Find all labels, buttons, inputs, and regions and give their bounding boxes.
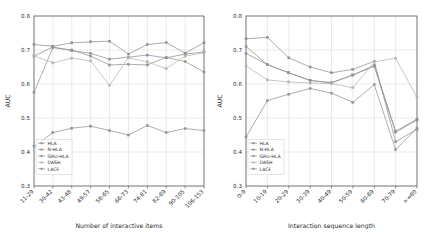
data-point — [330, 83, 332, 85]
data-point — [416, 127, 418, 129]
x-tick-label: 40-49 — [316, 188, 332, 204]
data-point — [373, 84, 375, 86]
data-point — [373, 65, 375, 67]
chart-panel-right: 0.30.40.50.60.70.80-910-1920-2930-3940-4… — [212, 0, 425, 232]
data-point — [165, 68, 167, 70]
y-tick-label: 0.4 — [233, 149, 242, 155]
series-line-gru-hla — [34, 48, 204, 93]
x-tick-label: 106-153 — [184, 188, 205, 209]
legend-swatch-marker — [253, 161, 255, 163]
legend-swatch-marker — [253, 149, 255, 151]
data-point — [309, 79, 311, 81]
y-tick-label: 0.6 — [21, 81, 30, 87]
data-point — [71, 127, 73, 129]
data-point — [395, 141, 397, 143]
data-point — [184, 52, 186, 54]
data-point — [352, 101, 354, 103]
data-point — [203, 71, 205, 73]
y-tick-label: 0.5 — [21, 115, 30, 121]
data-point — [90, 60, 92, 62]
data-point — [352, 87, 354, 89]
chart-panel-left: 0.30.40.50.60.70.811-2930-4243-4849-5758… — [0, 0, 212, 232]
y-tick-label: 0.7 — [233, 47, 242, 53]
y-tick-label: 0.7 — [21, 47, 30, 53]
legend-swatch-marker — [253, 168, 255, 170]
legend-label-lacf: LACF — [260, 167, 272, 172]
data-point — [395, 131, 397, 133]
data-point — [165, 132, 167, 134]
legend-label-lacf: LACF — [48, 167, 60, 172]
x-tick-label: 10-19 — [252, 188, 268, 204]
data-point — [245, 136, 247, 138]
data-point — [146, 64, 148, 66]
data-point — [288, 93, 290, 95]
data-point — [90, 55, 92, 57]
data-point — [288, 72, 290, 74]
data-point — [108, 64, 110, 66]
data-point — [266, 64, 268, 66]
data-point — [416, 119, 418, 121]
x-tick-label: 49-57 — [76, 188, 92, 204]
legend-label-dash: DASH — [48, 160, 61, 165]
data-point — [52, 62, 54, 64]
data-point — [71, 49, 73, 51]
data-point — [266, 79, 268, 81]
y-tick-label: 0.3 — [21, 183, 30, 189]
data-point — [108, 129, 110, 131]
data-point — [184, 127, 186, 129]
data-point — [127, 53, 129, 55]
x-tick-label: 30-39 — [295, 188, 311, 204]
data-point — [309, 66, 311, 68]
x-tick-label: 0-9 — [236, 188, 247, 199]
legend-label-gru-hla: GRU-HLA — [48, 154, 70, 159]
data-point — [165, 41, 167, 43]
series-line-dash — [34, 53, 204, 86]
x-tick-label: 30-42 — [38, 188, 54, 204]
plot-left: 0.30.40.50.60.70.811-2930-4243-4849-5758… — [0, 0, 212, 232]
y-tick-label: 0.8 — [233, 13, 242, 19]
y-tick-label: 0.8 — [21, 13, 30, 19]
data-point — [146, 124, 148, 126]
data-point — [90, 41, 92, 43]
x-tick-label: 66-73 — [113, 188, 129, 204]
x-tick-label: 43-48 — [57, 188, 73, 204]
legend-label-n-hla: N-HLA — [48, 147, 63, 152]
data-point — [33, 145, 35, 147]
legend-label-hla: HLA — [260, 141, 270, 146]
data-point — [352, 74, 354, 76]
chart-svg-left: 0.30.40.50.60.70.811-2930-4243-4849-5758… — [0, 0, 212, 232]
data-point — [203, 42, 205, 44]
data-point — [395, 149, 397, 151]
chart-svg-right: 0.30.40.50.60.70.80-910-1920-2930-3940-4… — [212, 0, 425, 232]
data-point — [288, 81, 290, 83]
legend-swatch-marker — [41, 149, 43, 151]
y-tick-label: 0.5 — [233, 115, 242, 121]
data-point — [352, 68, 354, 70]
figure-container: 0.30.40.50.60.70.811-2930-4243-4849-5758… — [0, 0, 425, 232]
data-point — [309, 82, 311, 84]
data-point — [127, 63, 129, 65]
legend-swatch-marker — [41, 155, 43, 157]
data-point — [108, 84, 110, 86]
data-point — [165, 56, 167, 58]
x-tick-label: 58-65 — [95, 188, 111, 204]
x-tick-label: 90-105 — [168, 188, 187, 207]
legend-label-hla: HLA — [48, 141, 58, 146]
y-tick-label: 0.4 — [21, 149, 30, 155]
plot-right: 0.30.40.50.60.70.80-910-1920-2930-3940-4… — [212, 0, 425, 232]
data-point — [245, 52, 247, 54]
y-tick-label: 0.6 — [233, 81, 242, 87]
legend-label-n-hla: N-HLA — [260, 147, 275, 152]
data-point — [52, 47, 54, 49]
data-point — [108, 40, 110, 42]
data-point — [33, 55, 35, 57]
data-point — [245, 46, 247, 48]
data-point — [266, 36, 268, 38]
x-axis-label: Number of interactive items — [75, 222, 162, 229]
data-point — [266, 100, 268, 102]
data-point — [184, 55, 186, 57]
x-tick-label: 50-59 — [338, 188, 354, 204]
data-point — [146, 61, 148, 63]
data-point — [33, 43, 35, 45]
data-point — [71, 57, 73, 59]
